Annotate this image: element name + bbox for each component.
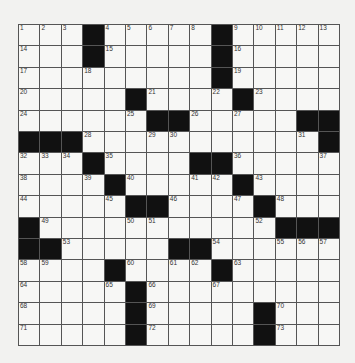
grid-cell[interactable] [254, 68, 274, 88]
grid-cell[interactable] [62, 325, 82, 345]
grid-cell[interactable]: 15 [105, 46, 125, 66]
grid-cell[interactable]: 26 [190, 111, 210, 131]
grid-cell[interactable]: 59 [40, 260, 60, 280]
grid-cell[interactable]: 48 [276, 196, 296, 216]
grid-cell[interactable] [297, 89, 317, 109]
grid-cell[interactable] [297, 303, 317, 323]
grid-cell[interactable]: 45 [105, 196, 125, 216]
grid-cell[interactable] [212, 325, 232, 345]
grid-cell[interactable] [169, 218, 189, 238]
grid-cell[interactable]: 28 [83, 132, 103, 152]
grid-cell[interactable] [297, 46, 317, 66]
grid-cell[interactable] [319, 282, 339, 302]
grid-cell[interactable] [297, 68, 317, 88]
grid-cell[interactable]: 25 [126, 111, 146, 131]
grid-cell[interactable] [254, 46, 274, 66]
grid-cell[interactable] [147, 175, 167, 195]
grid-cell[interactable]: 8 [190, 25, 210, 45]
grid-cell[interactable] [233, 239, 253, 259]
grid-cell[interactable] [62, 46, 82, 66]
grid-cell[interactable]: 46 [169, 196, 189, 216]
grid-cell[interactable] [319, 175, 339, 195]
grid-cell[interactable]: 33 [40, 153, 60, 173]
grid-cell[interactable] [105, 239, 125, 259]
grid-cell[interactable]: 41 [190, 175, 210, 195]
grid-cell[interactable] [62, 111, 82, 131]
grid-cell[interactable] [297, 325, 317, 345]
grid-cell[interactable] [62, 260, 82, 280]
grid-cell[interactable] [190, 196, 210, 216]
grid-cell[interactable] [190, 132, 210, 152]
grid-cell[interactable] [40, 196, 60, 216]
grid-cell[interactable] [147, 239, 167, 259]
grid-cell[interactable]: 14 [19, 46, 39, 66]
grid-cell[interactable]: 60 [126, 260, 146, 280]
grid-cell[interactable] [190, 46, 210, 66]
grid-cell[interactable] [40, 46, 60, 66]
grid-cell[interactable]: 31 [297, 132, 317, 152]
grid-cell[interactable] [169, 68, 189, 88]
grid-cell[interactable]: 43 [254, 175, 274, 195]
grid-cell[interactable] [147, 260, 167, 280]
grid-cell[interactable]: 65 [105, 282, 125, 302]
grid-cell[interactable] [83, 239, 103, 259]
grid-cell[interactable]: 53 [62, 239, 82, 259]
grid-cell[interactable] [62, 282, 82, 302]
grid-cell[interactable]: 58 [19, 260, 39, 280]
grid-cell[interactable] [62, 175, 82, 195]
grid-cell[interactable]: 50 [126, 218, 146, 238]
grid-cell[interactable]: 11 [276, 25, 296, 45]
grid-cell[interactable] [105, 325, 125, 345]
grid-cell[interactable] [276, 153, 296, 173]
grid-cell[interactable] [62, 196, 82, 216]
grid-cell[interactable] [276, 46, 296, 66]
grid-cell[interactable]: 16 [233, 46, 253, 66]
grid-cell[interactable] [83, 218, 103, 238]
grid-cell[interactable] [105, 218, 125, 238]
grid-cell[interactable] [105, 89, 125, 109]
grid-cell[interactable]: 13 [319, 25, 339, 45]
grid-cell[interactable] [276, 260, 296, 280]
grid-cell[interactable]: 37 [319, 153, 339, 173]
grid-cell[interactable] [212, 218, 232, 238]
grid-cell[interactable]: 5 [126, 25, 146, 45]
grid-cell[interactable] [190, 89, 210, 109]
grid-cell[interactable] [233, 282, 253, 302]
grid-cell[interactable] [254, 111, 274, 131]
grid-cell[interactable] [40, 89, 60, 109]
grid-cell[interactable]: 69 [147, 303, 167, 323]
grid-cell[interactable] [276, 68, 296, 88]
grid-cell[interactable] [83, 111, 103, 131]
grid-cell[interactable] [276, 132, 296, 152]
grid-cell[interactable] [254, 260, 274, 280]
grid-cell[interactable] [190, 282, 210, 302]
grid-cell[interactable] [190, 68, 210, 88]
grid-cell[interactable]: 44 [19, 196, 39, 216]
grid-cell[interactable] [233, 325, 253, 345]
grid-cell[interactable]: 52 [254, 218, 274, 238]
grid-cell[interactable] [169, 153, 189, 173]
grid-cell[interactable] [297, 282, 317, 302]
grid-cell[interactable]: 35 [105, 153, 125, 173]
grid-cell[interactable] [212, 132, 232, 152]
grid-cell[interactable] [190, 218, 210, 238]
grid-cell[interactable]: 20 [19, 89, 39, 109]
grid-cell[interactable]: 29 [147, 132, 167, 152]
grid-cell[interactable] [169, 175, 189, 195]
grid-cell[interactable]: 42 [212, 175, 232, 195]
grid-cell[interactable] [83, 303, 103, 323]
grid-cell[interactable] [105, 111, 125, 131]
grid-cell[interactable]: 27 [233, 111, 253, 131]
grid-cell[interactable]: 6 [147, 25, 167, 45]
grid-cell[interactable] [169, 325, 189, 345]
grid-cell[interactable] [40, 303, 60, 323]
grid-cell[interactable]: 62 [190, 260, 210, 280]
grid-cell[interactable] [40, 111, 60, 131]
grid-cell[interactable] [105, 132, 125, 152]
grid-cell[interactable] [319, 68, 339, 88]
grid-cell[interactable]: 19 [233, 68, 253, 88]
grid-cell[interactable] [276, 282, 296, 302]
grid-cell[interactable] [233, 218, 253, 238]
grid-cell[interactable] [169, 303, 189, 323]
grid-cell[interactable] [276, 175, 296, 195]
